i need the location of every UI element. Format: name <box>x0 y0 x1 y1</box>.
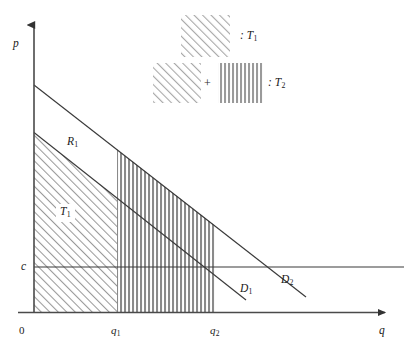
y-axis-label: p <box>13 38 19 50</box>
region-label-t1: T1 <box>56 204 75 222</box>
legend-label-t1: : T1 <box>240 30 257 43</box>
legend-swatch-t2-stripes <box>218 63 263 103</box>
legend-swatch-t2-hatch <box>153 63 201 103</box>
region-t2-shading <box>117 150 216 313</box>
x-tick-q2: q2 <box>210 325 220 337</box>
price-quantity-diagram: p q 0 c q1 q2 R1 D1 D2 T1 : T1 + : T2 <box>0 0 410 357</box>
curve-label-r1: R1 <box>67 136 78 149</box>
region-t1-shading <box>34 133 117 313</box>
curve-label-d2: D2 <box>281 274 294 287</box>
x-tick-q1: q1 <box>111 325 121 337</box>
legend-plus-sign: + <box>204 77 211 89</box>
x-axis-label: q <box>379 325 385 337</box>
curve-label-d1: D1 <box>240 283 253 296</box>
cost-axis-label: c <box>21 261 26 273</box>
legend-swatch-t1 <box>181 15 230 57</box>
diagram-canvas <box>0 0 410 357</box>
legend-label-t2: : T2 <box>268 77 285 90</box>
origin-label: 0 <box>19 325 25 336</box>
